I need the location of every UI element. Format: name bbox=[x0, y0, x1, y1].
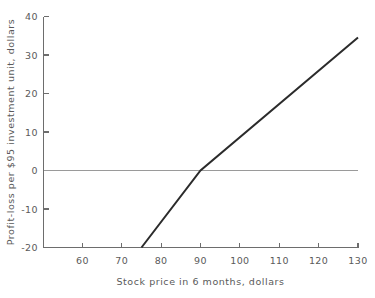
y-tick-label-neg20: -20 bbox=[21, 242, 38, 253]
y-axis-title: Profit-loss per $95 investment unit, dol… bbox=[5, 19, 16, 246]
profit-loss-line-chart: 40 30 20 10 0 -10 -20 60 70 80 90 100 11 bbox=[0, 0, 375, 298]
chart-background bbox=[0, 0, 375, 298]
y-tick-label-0: 0 bbox=[32, 165, 38, 176]
x-tick-label-90: 90 bbox=[194, 255, 207, 266]
x-tick-label-100: 100 bbox=[230, 255, 249, 266]
x-tick-label-110: 110 bbox=[270, 255, 289, 266]
x-tick-label-130: 130 bbox=[348, 255, 367, 266]
x-axis-title: Stock price in 6 months, dollars bbox=[117, 276, 285, 287]
x-tick-label-80: 80 bbox=[155, 255, 168, 266]
y-tick-label-40: 40 bbox=[25, 11, 38, 22]
y-tick-label-10: 10 bbox=[25, 127, 38, 138]
x-tick-label-70: 70 bbox=[115, 255, 128, 266]
y-tick-label-20: 20 bbox=[25, 88, 38, 99]
chart-figure: 40 30 20 10 0 -10 -20 60 70 80 90 100 11 bbox=[0, 0, 375, 298]
x-tick-label-60: 60 bbox=[76, 255, 89, 266]
y-tick-label-neg10: -10 bbox=[21, 204, 38, 215]
y-tick-label-30: 30 bbox=[25, 50, 38, 61]
x-tick-label-120: 120 bbox=[309, 255, 328, 266]
